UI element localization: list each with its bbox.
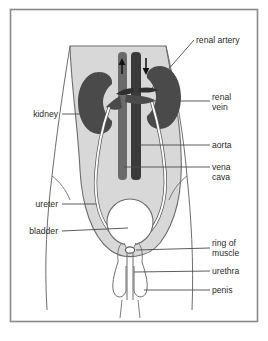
label-vena-cava-line2: cava xyxy=(212,172,230,182)
label-ring-of-muscle-line1: ring of xyxy=(212,238,236,248)
label-kidney: kidney xyxy=(33,109,59,119)
bladder-organ xyxy=(107,199,153,245)
label-renal-vein-line2: vein xyxy=(212,102,228,112)
label-renal-vein-line1: renal xyxy=(212,92,231,102)
ring-of-muscle-sphincter xyxy=(125,247,134,253)
label-urethra: urethra xyxy=(212,266,239,276)
label-penis: penis xyxy=(212,285,233,295)
figure-root: renal artery renal vein aorta vena cava … xyxy=(0,0,268,341)
label-aorta: aorta xyxy=(212,140,232,150)
label-bladder: bladder xyxy=(29,226,58,236)
label-ring-of-muscle-line2: muscle xyxy=(212,248,239,258)
urinary-system-diagram: renal artery renal vein aorta vena cava … xyxy=(0,0,268,341)
label-renal-artery: renal artery xyxy=(196,35,240,45)
label-ureter: ureter xyxy=(36,199,59,209)
label-vena-cava-line1: vena xyxy=(212,162,231,172)
aorta-vessel xyxy=(131,52,141,180)
